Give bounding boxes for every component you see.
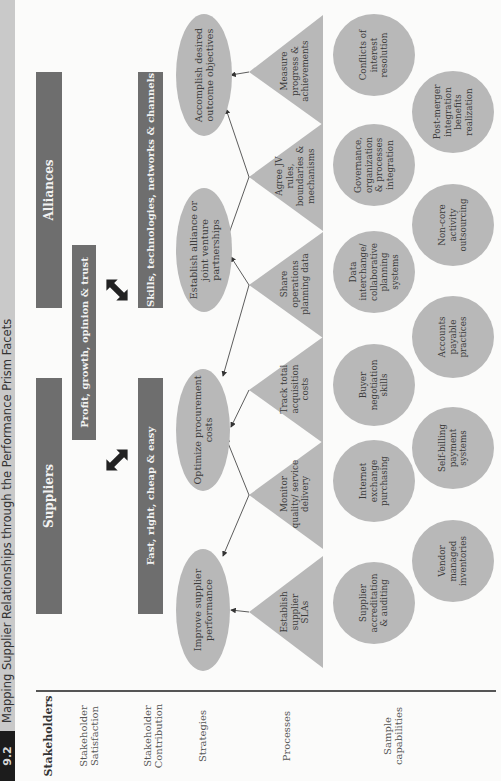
- process-label-6: Measure progress & achievements: [270, 37, 320, 105]
- process-label-2: Monitor quality/ service delivery: [270, 458, 320, 530]
- capability-circle: Buyer negotiation skills: [333, 344, 415, 426]
- process-label-5: Agree JV rules, boundaries & mechanisms: [268, 143, 322, 209]
- capability-circle: Accounts payable practices: [412, 296, 494, 378]
- connector-arrows: [223, 72, 249, 612]
- process-triangles: [249, 15, 323, 668]
- capability-circle: Conflicts of interest resolution: [333, 14, 415, 96]
- process-label-3: Track total acquisition costs: [270, 358, 320, 420]
- process-label-1: Establish supplier SLAs: [270, 582, 320, 642]
- strategy-ellipse-2: Optimize procurement costs: [176, 369, 230, 491]
- capability-circle: Data interchange/ collaborative planning…: [333, 231, 415, 313]
- exchange-arrow-icon-suppliers: [101, 444, 134, 477]
- exchange-arrow-icon-alliances: [101, 274, 134, 307]
- diagram-canvas: 9.2 Mapping Supplier Relationships throu…: [0, 0, 501, 781]
- capability-circle: Vendor managed inventories: [412, 520, 494, 602]
- capability-circle: Non-core activity outsourcing: [412, 184, 494, 266]
- strategy-ellipse-3: Establish alliance or joint venture part…: [176, 188, 232, 312]
- capability-circle: Supplier accreditation & auditing: [333, 562, 415, 644]
- capability-circle: Post-merger integration benefits realiza…: [412, 71, 494, 153]
- capability-circle: Self-billing payment systems: [412, 407, 494, 489]
- strategy-ellipse-1: Improve supplier performance: [176, 549, 230, 671]
- process-label-4: Share operations planning data: [270, 253, 320, 315]
- capability-circle: Governance, organization & processes int…: [333, 124, 415, 206]
- strategy-ellipse-4: Accomplish desired outcome objectives: [176, 14, 232, 136]
- capability-circle: Internet exchange purchasing: [333, 440, 415, 522]
